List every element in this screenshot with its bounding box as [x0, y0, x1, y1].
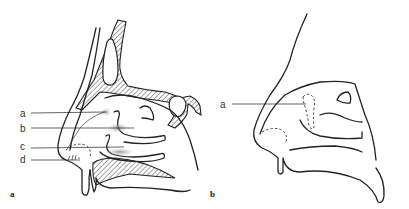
leader-line-c: [31, 147, 124, 148]
panel-label-b: b: [210, 189, 215, 199]
label-d: d: [20, 154, 26, 165]
inferior-turbinate: [100, 135, 165, 162]
label-b: b: [20, 123, 26, 134]
label-a: a: [20, 108, 26, 119]
inferior-meatus-shading: [106, 148, 134, 156]
superior-turbinate: [140, 106, 154, 120]
panel-b: a b: [210, 14, 384, 202]
inferior-turbinate-b: [300, 120, 362, 139]
nasolacrimal-duct-dashed: [303, 94, 315, 128]
nasolacrimal-line: [68, 112, 104, 148]
hard-palate-hatched: [93, 158, 175, 185]
panel-a: a b c d a: [10, 20, 201, 199]
leader-line-a: [31, 112, 106, 113]
label-c: c: [20, 141, 25, 152]
sphenoid-sinus: [169, 96, 186, 117]
middle-turbinate-b: [320, 113, 362, 122]
nasal-anatomy-diagram: a b c d a a b: [0, 0, 409, 209]
nasal-floor-b: [290, 146, 362, 152]
label-b-a: a: [220, 99, 226, 110]
cavity-wall-b: [260, 81, 376, 160]
superior-turbinate-b: [337, 92, 351, 103]
panel-label-a: a: [10, 189, 15, 199]
vestibule-dashed-b: [262, 128, 287, 142]
